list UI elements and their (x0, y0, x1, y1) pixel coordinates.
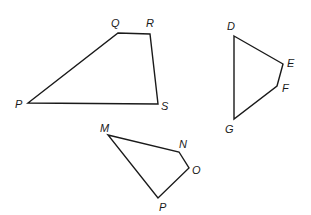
polygon-pqrs: PQRS (15, 17, 169, 112)
vertex-label: D (227, 20, 235, 32)
vertex-label: P (15, 98, 23, 110)
vertex-label: N (179, 138, 187, 150)
vertex-label: S (161, 100, 169, 112)
polygon-outline (234, 36, 283, 119)
polygon-outline (28, 33, 158, 104)
vertex-label: Q (111, 17, 120, 29)
polygon-mnop: MNOP (100, 122, 201, 213)
vertex-label: E (287, 57, 295, 69)
vertex-label: P (159, 201, 167, 213)
vertex-label: O (192, 164, 201, 176)
geometry-figure: PQRSDEFGMNOP (0, 0, 311, 215)
vertex-label: G (225, 123, 234, 135)
vertex-label: R (146, 17, 154, 29)
polygon-defg: DEFG (225, 20, 295, 135)
diagram-canvas: PQRSDEFGMNOP (0, 0, 311, 215)
vertex-label: M (100, 122, 110, 134)
vertex-label: F (282, 82, 290, 94)
polygon-outline (108, 135, 189, 198)
